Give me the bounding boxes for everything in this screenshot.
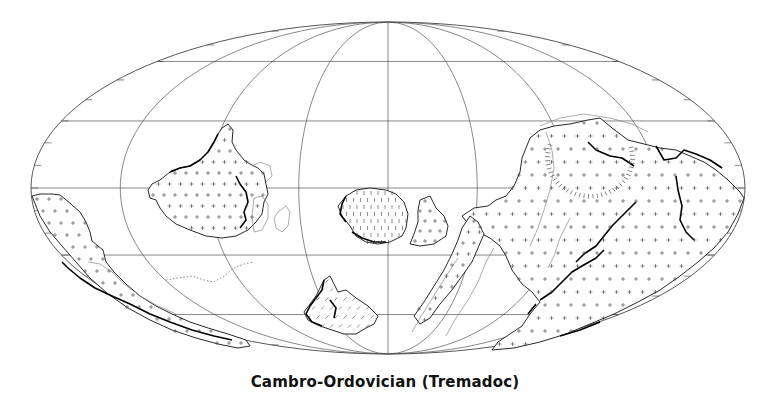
landmass-baltica [338, 188, 408, 244]
landmass-laurentia [148, 124, 268, 238]
landmass-siberia [410, 196, 448, 246]
landmass-islet [274, 206, 290, 232]
paleogeographic-map [0, 0, 770, 370]
laurentia-dotted-trench [166, 262, 254, 282]
map-caption: Cambro-Ordovician (Tremadoc) [0, 373, 770, 391]
